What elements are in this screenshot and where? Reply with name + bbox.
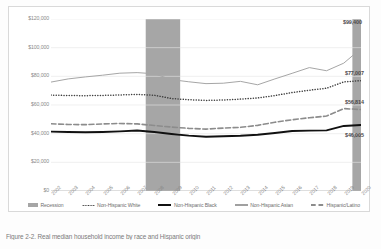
- dashed-line-icon: [311, 204, 324, 206]
- recession-icon: [28, 203, 38, 207]
- plot-area: $99,400$77,007$56,814$46,005: [51, 19, 361, 191]
- dotted-line-icon: [82, 204, 95, 207]
- chart-card: $120,000$100,000$80,000$60,000$40,000$20…: [8, 6, 370, 212]
- legend-item-label: Non-Hispanic White: [97, 202, 140, 208]
- series-value-label: $56,814: [345, 99, 364, 105]
- y-axis-tick-label: $60,000: [9, 102, 49, 107]
- legend-item-hispanic-latino[interactable]: Hispanic/Latino: [311, 202, 360, 208]
- solid-black-line-icon: [158, 204, 171, 206]
- figure-caption: Figure 2-2. Real median household income…: [6, 233, 374, 240]
- legend-item-recession[interactable]: Recession: [28, 202, 63, 208]
- x-axis-tick-label: 2020: [360, 184, 372, 196]
- figure-container: $120,000$100,000$80,000$60,000$40,000$20…: [0, 0, 381, 249]
- legend-item-label: Recession: [41, 202, 64, 208]
- y-axis-tick-label: $40,000: [9, 131, 49, 136]
- y-axis-tick-label: $120,000: [9, 16, 49, 21]
- series-value-label: $99,400: [343, 19, 362, 25]
- series-value-label: $77,007: [345, 70, 364, 76]
- chart-svg: [51, 19, 361, 191]
- series-value-label: $46,005: [345, 132, 364, 138]
- series-line: [51, 125, 361, 137]
- chart-legend: RecessionNon-Hispanic WhiteNon-Hispanic …: [18, 197, 370, 213]
- y-axis-tick-label: $0: [9, 188, 49, 193]
- legend-item-non-hispanic-asian[interactable]: Non-Hispanic Asian: [235, 202, 293, 208]
- legend-item-label: Non-Hispanic Asian: [250, 202, 293, 208]
- y-axis-tick-label: $80,000: [9, 73, 49, 78]
- legend-item-non-hispanic-white[interactable]: Non-Hispanic White: [82, 202, 141, 208]
- series-line: [51, 49, 361, 85]
- legend-item-label: Hispanic/Latino: [327, 202, 360, 208]
- y-axis-tick-label: $20,000: [9, 159, 49, 164]
- y-axis-tick-label: $100,000: [9, 45, 49, 50]
- legend-item-non-hispanic-black[interactable]: Non-Hispanic Black: [158, 202, 216, 208]
- legend-item-label: Non-Hispanic Black: [174, 202, 217, 208]
- solid-gray-line-icon: [235, 204, 248, 205]
- series-line: [51, 109, 361, 130]
- y-axis: $120,000$100,000$80,000$60,000$40,000$20…: [9, 19, 49, 191]
